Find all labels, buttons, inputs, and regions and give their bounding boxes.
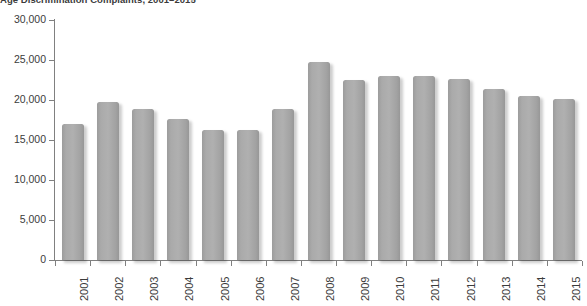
bar-2010 [378,76,400,260]
x-tick-label: 2013 [500,277,512,301]
x-tick-label: 2006 [254,277,266,301]
x-tick-label: 2012 [465,277,477,301]
bar-2015 [553,99,575,260]
chart-title: Age Discrimination Complaints, 2001–2015 [0,0,196,5]
x-tick-mark [512,261,513,266]
x-tick-mark [371,261,372,266]
x-tick-label: 2014 [535,277,547,301]
x-tick-label: 2005 [219,277,231,301]
x-tick-label: 2003 [148,277,160,301]
x-tick-mark [547,261,548,266]
x-tick-mark [266,261,267,266]
bar-2014 [518,96,540,260]
y-tick-label: 20,000 [0,93,46,105]
x-tick-mark [160,261,161,266]
x-tick-mark [301,261,302,266]
bar-2013 [483,89,505,260]
bar-2004 [167,119,189,260]
bar-2007 [272,109,294,260]
y-tick-label: 5,000 [0,213,46,225]
x-tick-label: 2007 [289,277,301,301]
bar-2006 [237,130,259,260]
bar-2012 [448,79,470,260]
bar-2002 [97,102,119,260]
x-tick-mark [406,261,407,266]
bar-2008 [308,62,330,260]
y-tick-label: 30,000 [0,13,46,25]
x-tick-mark [336,261,337,266]
x-tick-label: 2002 [113,277,125,301]
y-tick-label: 0 [0,253,46,265]
x-tick-label: 2009 [359,277,371,301]
x-tick-label: 2001 [78,277,90,301]
bar-2001 [62,124,84,260]
x-tick-label: 2011 [429,277,441,301]
y-tick-label: 15,000 [0,133,46,145]
x-tick-label: 2010 [394,277,406,301]
x-tick-mark [125,261,126,266]
x-tick-mark [582,261,583,266]
y-tick-label: 25,000 [0,53,46,65]
bar-2011 [413,76,435,260]
bar-chart: Age Discrimination Complaints, 2001–2015… [0,0,587,306]
plot-area [55,20,582,260]
x-tick-label: 2008 [324,277,336,301]
x-tick-mark [196,261,197,266]
x-tick-label: 2015 [570,277,582,301]
x-tick-mark [441,261,442,266]
bar-2005 [202,130,224,260]
bar-2009 [343,80,365,260]
x-tick-mark [90,261,91,266]
x-tick-label: 2004 [183,277,195,301]
x-tick-mark [477,261,478,266]
x-axis-line [54,260,582,261]
bar-2003 [132,109,154,260]
x-tick-mark [55,261,56,266]
x-tick-mark [231,261,232,266]
y-tick-label: 10,000 [0,173,46,185]
